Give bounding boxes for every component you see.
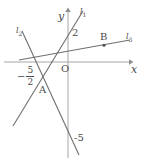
y-bottom-value-label: -5 <box>74 133 84 143</box>
x-axis-label: x <box>131 64 137 75</box>
line-l3 <box>19 40 130 60</box>
line-label-l2: l2 <box>16 27 22 37</box>
line-l2 <box>22 31 79 155</box>
math-figure: y x O l1 l2 l3 2 -5 − 5 2 A B <box>0 0 142 162</box>
point-a-label: A <box>39 85 46 95</box>
fraction-minus-sign: − <box>17 72 25 82</box>
line-label-l1: l1 <box>80 8 86 18</box>
y-intercept-value-label: 2 <box>72 28 78 38</box>
fraction: 5 2 <box>26 66 34 87</box>
point-b-label: B <box>100 32 107 42</box>
x-intercept-fraction-label: − 5 2 <box>17 66 34 87</box>
point-b-marker <box>103 44 106 47</box>
fraction-denominator: 2 <box>26 78 34 87</box>
points-group <box>103 44 106 47</box>
fraction-numerator: 5 <box>26 66 34 75</box>
y-axis-arrowhead <box>65 8 71 13</box>
y-axis-label: y <box>58 11 64 22</box>
origin-label: O <box>61 64 69 74</box>
line-label-l3: l3 <box>126 33 132 43</box>
